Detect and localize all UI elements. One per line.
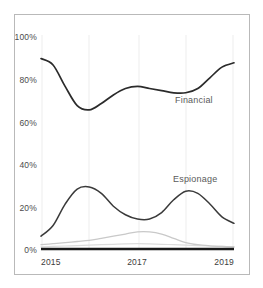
gridlines — [42, 35, 233, 249]
y-tick-label: 0% — [24, 245, 37, 255]
y-tick-label: 100% — [15, 32, 37, 42]
x-tick-label: 2017 — [127, 257, 147, 267]
series-label-financial: Financial — [175, 95, 213, 105]
series-line-espionage — [41, 187, 234, 237]
y-tick-label: 80% — [19, 75, 37, 85]
y-tick-label: 40% — [19, 160, 37, 170]
series-layer — [41, 59, 234, 247]
y-tick-label: 60% — [19, 118, 37, 128]
y-axis: 100% 80% 60% 40% 20% 0% — [15, 32, 37, 255]
y-tick-label: 20% — [19, 203, 37, 213]
chart-card: 100% 80% 60% 40% 20% 0% Financial Espion… — [14, 14, 250, 275]
series-annotations: Financial Espionage — [173, 95, 217, 184]
line-chart: 100% 80% 60% 40% 20% 0% Financial Espion… — [15, 15, 249, 274]
x-tick-label: 2015 — [41, 257, 61, 267]
series-line-grudge — [41, 232, 234, 247]
series-label-espionage: Espionage — [173, 174, 217, 184]
x-tick-label: 2019 — [214, 257, 234, 267]
x-axis: 2015 2017 2019 — [41, 257, 234, 267]
